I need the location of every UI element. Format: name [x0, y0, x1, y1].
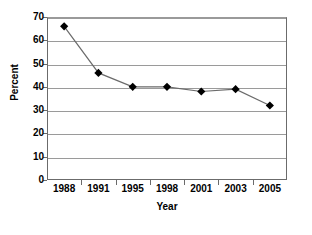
line-chart: Percent 70 60 50 40 30 20 10 0 1988 1991… [0, 0, 312, 235]
y-tick-label-10: 10 [4, 152, 44, 162]
y-tick-label-60: 60 [4, 35, 44, 45]
x-axis-title: Year [47, 201, 287, 212]
gridline-20 [48, 134, 286, 135]
y-tick-label-70: 70 [4, 12, 44, 22]
y-tick-label-50: 50 [4, 59, 44, 69]
gridline-50 [48, 65, 286, 66]
plot-area [47, 17, 287, 180]
gridline-40 [48, 88, 286, 89]
y-tick-label-20: 20 [4, 128, 44, 138]
y-tick-label-0: 0 [4, 175, 44, 185]
gridline-30 [48, 111, 286, 112]
gridline-70 [48, 18, 286, 19]
x-tick-label-2005: 2005 [247, 184, 293, 194]
gridline-60 [48, 41, 286, 42]
gridline-10 [48, 158, 286, 159]
y-tick-label-40: 40 [4, 82, 44, 92]
y-tick-label-30: 30 [4, 105, 44, 115]
